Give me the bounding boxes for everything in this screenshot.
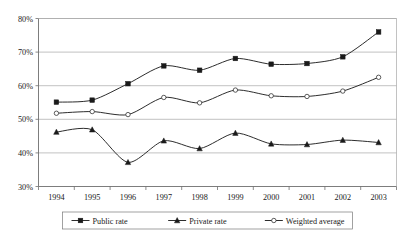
data-point	[126, 112, 130, 116]
data-point	[54, 111, 58, 115]
legend-label: Public rate	[93, 217, 129, 226]
y-tick-label: 60%	[18, 82, 33, 91]
x-tick-label: 2003	[370, 193, 386, 202]
data-point	[197, 68, 202, 73]
data-point	[341, 89, 345, 93]
data-point	[233, 56, 238, 61]
y-tick-label: 50%	[18, 115, 33, 124]
line-chart: 30%40%50%60%70%80% 199419951996199719981…	[0, 0, 411, 241]
x-tick-label: 1997	[156, 193, 172, 202]
legend: Public ratePrivate rateWeighted average	[63, 212, 353, 229]
data-point	[162, 95, 166, 99]
data-point	[162, 64, 167, 69]
data-point	[305, 61, 310, 66]
data-point	[54, 100, 59, 105]
x-tick-label: 2000	[263, 193, 279, 202]
data-point	[90, 98, 95, 103]
data-point	[341, 55, 346, 60]
x-tick-label: 1994	[48, 193, 64, 202]
x-tick-label: 1999	[227, 193, 243, 202]
y-tick-label: 70%	[18, 48, 33, 57]
data-point	[305, 94, 309, 98]
data-point	[269, 62, 274, 67]
data-point	[376, 30, 381, 35]
data-point	[126, 81, 131, 86]
y-tick-label: 40%	[18, 149, 33, 158]
chart-canvas: 30%40%50%60%70%80% 199419951996199719981…	[0, 0, 411, 241]
data-point	[90, 109, 94, 113]
legend-marker	[272, 218, 276, 222]
data-point	[269, 94, 273, 98]
x-tick-label: 2002	[335, 193, 351, 202]
y-tick-label: 80%	[18, 15, 33, 24]
y-tick-label: 30%	[18, 183, 33, 192]
legend-label: Weighted average	[286, 217, 345, 226]
x-tick-label: 1996	[120, 193, 136, 202]
x-tick-label: 2001	[299, 193, 315, 202]
x-tick-label: 1995	[84, 193, 100, 202]
data-point	[197, 101, 201, 105]
plot-background	[0, 0, 411, 241]
data-point	[376, 75, 380, 79]
x-tick-label: 1998	[191, 193, 207, 202]
legend-label: Private rate	[189, 217, 227, 226]
data-point	[233, 88, 237, 92]
legend-marker	[78, 218, 83, 223]
